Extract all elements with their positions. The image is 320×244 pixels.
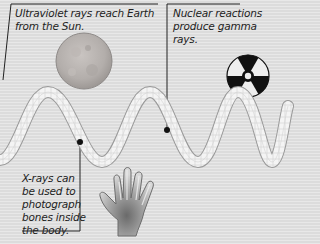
xray-hand-icon (100, 168, 154, 237)
gamma-callout-text: Nuclear reactions produce gamma rays. (173, 7, 262, 46)
xray-line-3: photograph (22, 198, 86, 211)
gamma-line-3: rays. (173, 33, 262, 46)
gamma-callout-dot (164, 127, 170, 133)
em-wave-diagram: Ultraviolet rays reach Earth from the Su… (0, 0, 313, 244)
uv-line-2: from the Sun. (15, 20, 154, 33)
xray-line-1: X-rays can (22, 172, 86, 185)
xray-line-5: the body. (22, 224, 86, 237)
gamma-line-1: Nuclear reactions (173, 7, 262, 20)
xray-line-4: bones inside (22, 211, 86, 224)
uv-callout-text: Ultraviolet rays reach Earth from the Su… (15, 7, 154, 33)
xray-line-2: be used to (22, 185, 86, 198)
sun-icon (56, 33, 112, 89)
uv-line-1: Ultraviolet rays reach Earth (15, 7, 154, 20)
electromagnetic-wave (0, 92, 288, 162)
gamma-line-2: produce gamma (173, 20, 262, 33)
xray-callout-text: X-rays can be used to photograph bones i… (22, 172, 86, 237)
xray-callout-dot (77, 139, 83, 145)
